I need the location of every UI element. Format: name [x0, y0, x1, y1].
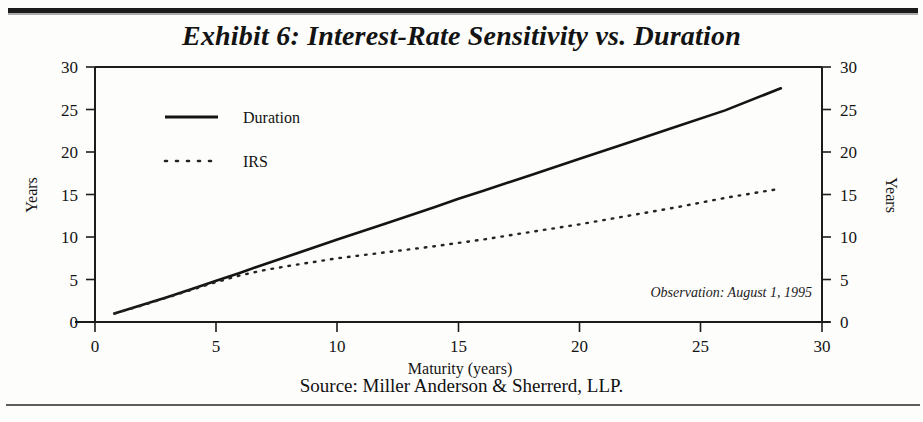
series-line-duration [114, 88, 780, 313]
y-left-tick-25: 25 [61, 101, 78, 120]
y-left-tick-20: 20 [61, 143, 78, 162]
y-left-tick-15: 15 [61, 186, 78, 205]
x-tick-10: 10 [329, 337, 346, 356]
x-tick-5: 5 [212, 337, 221, 356]
y-right-tick-0: 0 [840, 313, 849, 332]
x-tick-15: 15 [450, 337, 467, 356]
y-left-tick-10: 10 [61, 228, 78, 247]
y-axis-left-ticks [86, 67, 95, 322]
bottom-rule-divider [6, 404, 920, 406]
legend-label-duration: Duration [243, 109, 300, 126]
chart-svg: 0 5 10 15 20 25 30 0 5 10 15 20 25 30 0 … [0, 0, 923, 422]
y-axis-left-title: Years [23, 177, 40, 213]
y-axis-right-title: Years [883, 177, 900, 213]
source-caption: Source: Miller Anderson & Sherrerd, LLP. [0, 375, 923, 397]
exhibit-page: Exhibit 6: Interest-Rate Sensitivity vs.… [0, 0, 923, 422]
y-axis-right-ticks [822, 67, 831, 322]
x-tick-0: 0 [91, 337, 100, 356]
x-tick-30: 30 [814, 337, 831, 356]
y-right-tick-10: 10 [840, 228, 857, 247]
chart-plot-area: 0 5 10 15 20 25 30 0 5 10 15 20 25 30 0 … [0, 0, 923, 422]
y-left-tick-30: 30 [61, 58, 78, 77]
chart-legend: Duration IRS [165, 109, 300, 170]
x-tick-20: 20 [571, 337, 588, 356]
y-right-tick-25: 25 [840, 101, 857, 120]
observation-annotation: Observation: August 1, 1995 [650, 285, 812, 300]
y-right-tick-15: 15 [840, 186, 857, 205]
y-left-tick-5: 5 [70, 271, 79, 290]
y-left-tick-0: 0 [70, 313, 79, 332]
x-tick-25: 25 [692, 337, 709, 356]
y-right-tick-20: 20 [840, 143, 857, 162]
y-right-tick-5: 5 [840, 271, 849, 290]
x-axis-ticks [95, 322, 822, 332]
y-right-tick-30: 30 [840, 58, 857, 77]
legend-label-irs: IRS [243, 153, 268, 170]
